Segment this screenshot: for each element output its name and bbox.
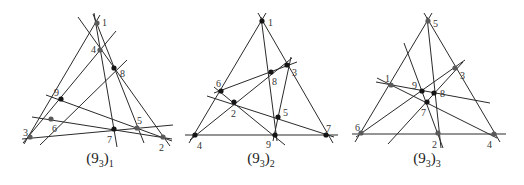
point-2-4 <box>192 132 197 137</box>
label-2-4: 4 <box>197 140 202 151</box>
caption-config-2: (93)2 <box>211 150 311 169</box>
point-2-2 <box>231 99 236 104</box>
label-2-6: 6 <box>216 78 221 89</box>
caption-text: (9 <box>86 150 99 166</box>
point-3-4 <box>491 131 496 136</box>
label-1-9: 9 <box>54 87 59 98</box>
caption-text: (9 <box>247 150 260 166</box>
point-2-3 <box>284 62 289 67</box>
label-2-1: 1 <box>268 17 273 28</box>
label-3-9: 9 <box>412 80 417 91</box>
point-1-5 <box>134 125 139 130</box>
caption-sub-outer: 2 <box>270 158 275 169</box>
config-2-lines <box>185 13 338 145</box>
label-3-3: 3 <box>460 70 465 81</box>
config-1-lines <box>22 13 173 147</box>
point-2-6 <box>218 88 223 93</box>
label-3-5: 5 <box>433 18 438 29</box>
caption-config-3: (93)3 <box>377 150 477 169</box>
label-3-6: 6 <box>355 122 360 133</box>
label-2-9: 9 <box>266 139 271 150</box>
point-2-9 <box>272 132 277 137</box>
label-1-3: 3 <box>23 127 28 138</box>
point-3-5 <box>425 18 430 23</box>
config-3-points <box>358 18 496 136</box>
point-3-8 <box>431 90 436 95</box>
config-3-labels: 1 2 3 4 5 6 7 8 9 <box>355 18 492 150</box>
caption-sub-outer: 1 <box>109 158 114 169</box>
config-1-points <box>27 20 165 139</box>
point-3-2 <box>435 130 440 135</box>
point-2-5 <box>275 114 280 119</box>
label-3-4: 4 <box>487 139 492 150</box>
label-1-6: 6 <box>52 123 57 134</box>
point-1-7 <box>111 126 116 131</box>
label-1-5: 5 <box>137 115 142 126</box>
label-1-8: 8 <box>120 68 125 79</box>
point-1-4 <box>97 47 102 52</box>
label-1-2: 2 <box>159 142 164 153</box>
config-3-lines <box>352 13 506 148</box>
label-1-7: 7 <box>107 134 112 145</box>
label-1-1: 1 <box>102 17 107 28</box>
label-2-5: 5 <box>283 107 288 118</box>
point-2-8 <box>268 69 273 74</box>
point-3-7 <box>424 99 429 104</box>
caption-text: (9 <box>413 150 426 166</box>
point-1-3 <box>27 134 32 139</box>
label-3-2: 2 <box>432 139 437 150</box>
label-3-1: 1 <box>385 73 390 84</box>
label-2-2: 2 <box>231 108 236 119</box>
point-1-9 <box>58 96 63 101</box>
point-1-8 <box>111 65 116 70</box>
config-2-points <box>192 18 328 137</box>
point-1-6 <box>48 116 53 121</box>
label-3-7: 7 <box>421 107 426 118</box>
label-1-4: 4 <box>91 44 96 55</box>
caption-sub-outer: 3 <box>436 158 441 169</box>
label-3-8: 8 <box>440 88 445 99</box>
point-1-1 <box>94 20 99 25</box>
point-2-1 <box>259 18 264 23</box>
caption-config-1: (93)1 <box>50 150 150 169</box>
label-2-3: 3 <box>292 67 297 78</box>
label-2-8: 8 <box>272 76 277 87</box>
point-1-2 <box>160 134 165 139</box>
point-3-3 <box>452 65 457 70</box>
point-3-9 <box>419 88 424 93</box>
label-2-7: 7 <box>326 123 331 134</box>
